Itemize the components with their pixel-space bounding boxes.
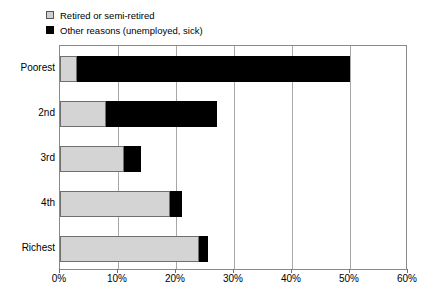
x-axis-label-0: 0% xyxy=(39,273,79,285)
bar-segment xyxy=(77,56,350,82)
x-axis-label-30: 30% xyxy=(213,273,253,285)
x-axis-label-60: 60% xyxy=(387,273,427,285)
legend-swatch-black-square-icon xyxy=(46,26,54,34)
bar-segment xyxy=(60,101,106,127)
y-axis-label-poorest: Poorest xyxy=(3,62,55,74)
legend-item-retired: Retired or semi-retired xyxy=(46,8,203,22)
legend-label-other-reasons: Other reasons (unemployed, sick) xyxy=(60,25,203,36)
figure-caption xyxy=(18,294,430,308)
bar-segment xyxy=(60,56,77,82)
x-axis-label-20: 20% xyxy=(155,273,195,285)
y-axis: Poorest2nd3rd4thRichest xyxy=(0,45,55,270)
bar-segment xyxy=(170,191,182,217)
bar-segment xyxy=(60,191,170,217)
legend-item-other-reasons: Other reasons (unemployed, sick) xyxy=(46,23,203,37)
bar-row xyxy=(60,191,182,217)
x-axis-label-50: 50% xyxy=(329,273,369,285)
plot-area xyxy=(59,45,407,270)
bar-row xyxy=(60,56,350,82)
y-axis-label-richest: Richest xyxy=(3,242,55,254)
y-axis-label-4th: 4th xyxy=(3,197,55,209)
legend-label-retired: Retired or semi-retired xyxy=(60,10,155,21)
x-axis-label-10: 10% xyxy=(97,273,137,285)
y-axis-label-2nd: 2nd xyxy=(3,107,55,119)
x-axis: 0%10%20%30%40%50%60% xyxy=(0,273,434,289)
legend-swatch-gray-square-icon xyxy=(46,11,54,19)
bar-segment xyxy=(60,236,199,262)
bar-row xyxy=(60,146,141,172)
bar-segment xyxy=(199,236,208,262)
bar-segment xyxy=(60,146,124,172)
bar-segment xyxy=(124,146,141,172)
bar-segment xyxy=(106,101,216,127)
chart-legend: Retired or semi-retired Other reasons (u… xyxy=(46,8,203,38)
x-axis-label-40: 40% xyxy=(271,273,311,285)
bar-row xyxy=(60,236,208,262)
bar-rows xyxy=(60,46,406,269)
bar-row xyxy=(60,101,217,127)
y-axis-label-3rd: 3rd xyxy=(3,152,55,164)
